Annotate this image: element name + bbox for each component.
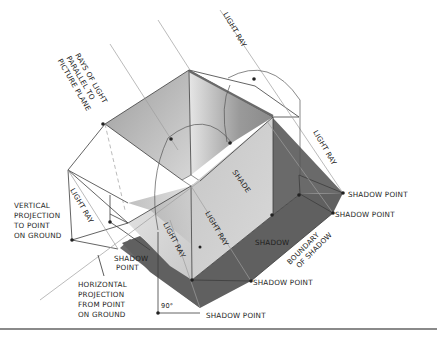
label-light-ray-right: LIGHT RAY: [311, 129, 339, 168]
label-shadow-point-1: SHADOW POINT: [348, 190, 408, 199]
sp-left-line2: POINT: [116, 263, 139, 272]
hproj-line2: PROJECTION: [78, 290, 124, 299]
label-shadow-point-4: SHADOW POINT: [206, 311, 266, 320]
rotated-label-rays-parallel: RAYS OF LIGHT PARALLEL TO PICTURE PLANE: [56, 48, 110, 114]
label-angle-90: 90°: [161, 302, 173, 310]
bottom-rule: [0, 328, 437, 330]
vproj-line3: TO POINT: [13, 221, 50, 230]
label-horizontal-projection: HORIZONTAL PROJECTION FROM POINT ON GROU…: [78, 280, 127, 319]
label-shadow: SHADOW: [255, 238, 289, 247]
sp-left-line1: SHADOW: [114, 254, 148, 263]
leader-line: [98, 255, 104, 276]
label-shadow-point-3: SHADOW POINT: [253, 278, 313, 287]
vproj-line2: PROJECTION: [14, 211, 60, 220]
vproj-line4: ON GROUND: [14, 231, 62, 240]
hproj-line3: FROM POINT: [78, 300, 126, 309]
hproj-line1: HORIZONTAL: [78, 280, 127, 289]
label-light-ray-top: LIGHT RAY: [221, 11, 249, 50]
label-vertical-projection: VERTICAL PROJECTION TO POINT ON GROUND: [13, 201, 62, 240]
hproj-line4: ON GROUND: [78, 310, 126, 319]
shade-shadow-diagram: RAYS OF LIGHT PARALLEL TO PICTURE PLANE …: [0, 0, 437, 340]
vproj-line1: VERTICAL: [14, 201, 50, 210]
label-shadow-point-2: SHADOW POINT: [335, 210, 395, 219]
